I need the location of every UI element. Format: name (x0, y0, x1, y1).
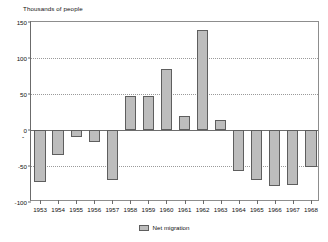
x-tick-mark (166, 200, 167, 204)
y-axis-tick-label: 150 (17, 19, 27, 26)
y-tick-mark (28, 58, 31, 59)
x-axis-tick-label-1960: 1960 (160, 206, 174, 213)
bar-1967 (287, 130, 298, 185)
bar-1959 (143, 96, 154, 130)
x-axis-tick-label-1958: 1958 (123, 206, 137, 213)
bar-1960 (161, 69, 172, 130)
gridline-50 (31, 94, 318, 95)
negative-axis-marker: - (22, 133, 24, 140)
x-tick-mark (185, 200, 186, 204)
x-tick-mark (257, 200, 258, 204)
bar-1966 (269, 130, 280, 186)
x-tick-mark (239, 200, 240, 204)
legend-swatch-net-migration (139, 225, 149, 231)
x-tick-mark (203, 200, 204, 204)
x-axis-tick-label-1955: 1955 (69, 206, 83, 213)
bar-1958 (125, 96, 136, 130)
x-axis-tick-label-1966: 1966 (268, 206, 282, 213)
x-axis-tick-label-1965: 1965 (250, 206, 264, 213)
x-tick-mark (130, 200, 131, 204)
legend-label-net-migration: Net migration (153, 224, 190, 231)
y-tick-mark (28, 166, 31, 167)
x-axis-tick-label-1953: 1953 (33, 206, 47, 213)
x-axis-tick-label-1954: 1954 (51, 206, 65, 213)
x-axis-tick-label-1967: 1967 (286, 206, 300, 213)
x-tick-mark (76, 200, 77, 204)
y-tick-mark (28, 202, 31, 203)
x-axis-tick-label-1964: 1964 (232, 206, 246, 213)
x-tick-mark (221, 200, 222, 204)
y-tick-mark (28, 94, 31, 95)
bar-1956 (89, 130, 100, 142)
bar-1964 (233, 130, 244, 171)
y-axis-tick-label: -50 (18, 163, 27, 170)
bar-1962 (197, 30, 208, 130)
bar-1968 (305, 130, 316, 167)
y-axis-tick-label: 50 (20, 91, 27, 98)
x-axis-tick-label-1968: 1968 (304, 206, 318, 213)
y-tick-mark (28, 130, 31, 131)
x-tick-mark (311, 200, 312, 204)
y-axis-tick-label: 100 (17, 55, 27, 62)
x-tick-mark (112, 200, 113, 204)
y-axis-tick-label: -100 (15, 199, 27, 206)
x-tick-mark (40, 200, 41, 204)
bar-1957 (107, 130, 118, 180)
bar-1955 (71, 130, 82, 137)
bar-1954 (52, 130, 63, 155)
chart-axis-title: Thousands of people (23, 5, 83, 12)
x-axis-tick-label-1957: 1957 (105, 206, 119, 213)
x-axis-tick-label-1956: 1956 (87, 206, 101, 213)
x-tick-mark (94, 200, 95, 204)
x-tick-mark (58, 200, 59, 204)
gridline-100 (31, 58, 318, 59)
x-axis-tick-label-1963: 1963 (214, 206, 228, 213)
x-axis-tick-label-1959: 1959 (142, 206, 156, 213)
x-tick-mark (293, 200, 294, 204)
bar-1963 (215, 120, 226, 130)
bar-1953 (34, 130, 45, 182)
bar-1961 (179, 116, 190, 130)
x-tick-mark (148, 200, 149, 204)
bar-1965 (251, 130, 262, 180)
net-migration-bar-chart: Thousands of people 150100500-50-1001953… (0, 0, 328, 242)
y-tick-mark (28, 22, 31, 23)
x-tick-mark (275, 200, 276, 204)
chart-legend: Net migration (0, 224, 328, 231)
plot-inner: 150100500-50-100195319541955195619571958… (31, 22, 318, 200)
plot-area: 150100500-50-100195319541955195619571958… (30, 21, 319, 201)
x-axis-tick-label-1961: 1961 (178, 206, 192, 213)
x-axis-tick-label-1962: 1962 (196, 206, 210, 213)
